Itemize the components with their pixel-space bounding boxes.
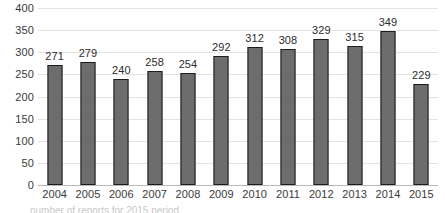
y-axis-tick-label: 150 <box>15 113 34 125</box>
bar[interactable] <box>80 62 95 185</box>
bar[interactable] <box>380 31 395 185</box>
bar[interactable] <box>247 47 262 185</box>
bar-value-label: 329 <box>312 24 331 36</box>
x-axis-tick-label: 2008 <box>171 188 204 200</box>
bar[interactable] <box>114 79 129 185</box>
bar[interactable] <box>280 49 295 185</box>
bar[interactable] <box>414 84 429 185</box>
y-axis-tick-label: 100 <box>15 135 34 147</box>
bar-value-label: 349 <box>379 16 398 28</box>
bar-slot: 312 <box>238 8 271 185</box>
x-axis-tick-label: 2014 <box>371 188 404 200</box>
bar-value-label: 271 <box>45 50 64 62</box>
bar-value-label: 279 <box>79 47 98 59</box>
y-axis-tick-label: 400 <box>15 2 34 14</box>
y-axis-tick-label: 200 <box>15 91 34 103</box>
bars-layer: 271279240258254292312308329315349229 <box>38 8 438 185</box>
y-axis-tick-label: 300 <box>15 46 34 58</box>
bar-value-label: 315 <box>345 31 364 43</box>
bar[interactable] <box>47 65 62 185</box>
x-axis-tick-label: 2010 <box>238 188 271 200</box>
y-axis-tick-label: 50 <box>22 157 34 169</box>
bar-slot: 315 <box>338 8 371 185</box>
y-axis-tick-label: 0 <box>28 179 34 191</box>
bar-slot: 254 <box>171 8 204 185</box>
bar-value-label: 229 <box>412 69 431 81</box>
x-axis-tick-label: 2004 <box>38 188 71 200</box>
bar-value-label: 312 <box>245 32 264 44</box>
y-axis: 400350300250200150100500 <box>0 8 34 185</box>
x-axis-tick-label: 2015 <box>405 188 438 200</box>
bar-slot: 279 <box>71 8 104 185</box>
x-axis-tick-label: 2011 <box>271 188 304 200</box>
bar[interactable] <box>347 46 362 185</box>
axis-baseline <box>38 185 438 186</box>
x-axis-tick-label: 2007 <box>138 188 171 200</box>
bar-value-label: 308 <box>279 34 298 46</box>
bar-value-label: 258 <box>145 56 164 68</box>
bar-slot: 271 <box>38 8 71 185</box>
bar-value-label: 254 <box>179 58 198 70</box>
bar[interactable] <box>314 39 329 185</box>
x-axis-tick-label: 2005 <box>71 188 104 200</box>
y-axis-tick-label: 350 <box>15 24 34 36</box>
bar-slot: 349 <box>371 8 404 185</box>
bar-slot: 329 <box>305 8 338 185</box>
x-axis-tick-label: 2006 <box>105 188 138 200</box>
bar-slot: 308 <box>271 8 304 185</box>
bar-slot: 258 <box>138 8 171 185</box>
x-axis: 2004200520062007200820092010201120122013… <box>38 188 438 204</box>
x-axis-tick-label: 2013 <box>338 188 371 200</box>
bar-slot: 229 <box>405 8 438 185</box>
bar-slot: 292 <box>205 8 238 185</box>
x-axis-tick-label: 2012 <box>305 188 338 200</box>
bar-value-label: 292 <box>212 41 231 53</box>
x-axis-tick-label: 2009 <box>205 188 238 200</box>
bar[interactable] <box>214 56 229 185</box>
cropped-caption: number of reports for 2015 period <box>30 205 330 213</box>
bar-slot: 240 <box>105 8 138 185</box>
bar-value-label: 240 <box>112 64 131 76</box>
y-axis-tick-label: 250 <box>15 68 34 80</box>
bar[interactable] <box>180 73 195 185</box>
bar-chart: 400350300250200150100500 271279240258254… <box>0 0 445 213</box>
bar[interactable] <box>147 71 162 185</box>
